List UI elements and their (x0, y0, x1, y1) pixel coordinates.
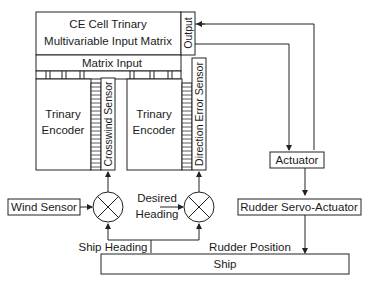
encoder-2-line2: Encoder (133, 124, 176, 136)
encoder-2-line1: Trinary (136, 108, 172, 120)
encoder-2-hatch (182, 83, 192, 170)
ship-heading-label: Ship Heading (78, 241, 147, 253)
desired-heading-line1: Desired (137, 192, 177, 204)
encoder-1-hatch (91, 83, 101, 170)
output-label: Output (182, 17, 194, 49)
rudder-position-label: Rudder Position (209, 241, 291, 253)
summing-junction-2 (184, 192, 214, 222)
crosswind-sensor-label: Crosswind Sensor (102, 81, 114, 167)
actuator-label: Actuator (276, 154, 319, 166)
summing-junction-1 (93, 192, 123, 222)
encoder-1-line2: Encoder (42, 124, 85, 136)
ship-label: Ship (213, 258, 236, 270)
control-diagram: CE Cell Trinary Multivariable Input Matr… (0, 0, 374, 281)
matrix-input-label: Matrix Input (82, 57, 143, 69)
rudder-servo-actuator-label: Rudder Servo-Actuator (240, 201, 358, 213)
wind-sensor-label: Wind Sensor (11, 201, 77, 213)
encoder-1-line1: Trinary (45, 108, 81, 120)
matrix-title-2: Multivariable Input Matrix (44, 35, 172, 47)
desired-heading-line2: Heading (136, 208, 179, 220)
direction-error-sensor-label: Direction Error Sensor (193, 62, 205, 166)
matrix-title-1: CE Cell Trinary (69, 18, 147, 30)
